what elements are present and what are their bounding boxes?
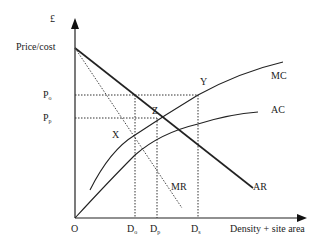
y-axis-arrow-icon	[71, 18, 79, 29]
quantity-label-ds: Ds	[191, 223, 201, 235]
ac-curve	[75, 112, 258, 218]
ar-curve	[75, 48, 253, 188]
ac-label: AC	[271, 104, 285, 115]
quantity-label-dp: Dp	[150, 223, 160, 235]
ar-label: AR	[253, 181, 267, 192]
mr-curve	[75, 48, 182, 208]
mr-label: MR	[171, 181, 187, 192]
origin-label: O	[71, 223, 78, 234]
quantity-label-do: Do	[127, 223, 137, 235]
x-axis-title: Density + site area	[230, 223, 305, 234]
point-z-label: Z	[152, 105, 158, 116]
price-label-pp: Pp	[43, 112, 52, 124]
y-axis-title: Price/cost	[16, 41, 56, 52]
mc-label: MC	[271, 70, 287, 81]
cost-revenue-diagram: £ Price/cost O Density + site area Po Pp…	[0, 0, 321, 244]
point-x-label: X	[112, 129, 120, 140]
x-axis-arrow-icon	[297, 214, 307, 222]
y-axis-unit-label: £	[50, 13, 55, 24]
point-y-label: Y	[200, 76, 207, 87]
price-label-po: Po	[43, 89, 52, 101]
